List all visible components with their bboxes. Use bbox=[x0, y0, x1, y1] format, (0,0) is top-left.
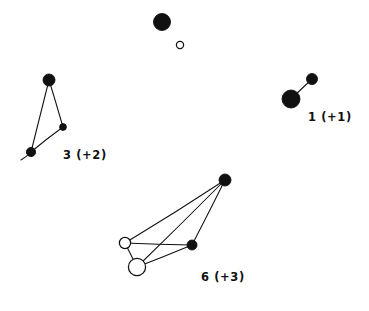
node-top-pair-t1-filled bbox=[154, 14, 171, 31]
node-top-pair-t2-open bbox=[176, 41, 183, 48]
node-bottom-quad-b4-open bbox=[128, 258, 145, 275]
node-left-triangle-l3-filled bbox=[26, 147, 35, 156]
cluster-diagram: 1 (+1)3 (+2)6 (+3) bbox=[0, 0, 369, 311]
nodes-layer bbox=[26, 14, 317, 276]
cluster-label-1: 3 (+2) bbox=[63, 148, 107, 162]
edges-layer bbox=[21, 79, 312, 267]
edge-bottom-quad-b1-b3 bbox=[125, 180, 225, 243]
node-bottom-quad-b3-open bbox=[119, 237, 130, 248]
cluster-label-2: 6 (+3) bbox=[201, 270, 245, 284]
node-bottom-quad-b1-filled bbox=[219, 174, 231, 186]
figure-canvas: 1 (+1)3 (+2)6 (+3) bbox=[0, 0, 369, 311]
edge-bottom-quad-b2-b3 bbox=[125, 243, 192, 245]
node-bottom-quad-b2-filled bbox=[187, 240, 197, 250]
cluster-label-0: 1 (+1) bbox=[308, 110, 352, 124]
edge-left-triangle-l1-l3 bbox=[31, 80, 49, 152]
edge-bottom-quad-b1-b4 bbox=[137, 180, 225, 267]
edge-left-triangle-l1-l2 bbox=[49, 80, 63, 127]
node-right-pair-r2-filled bbox=[307, 74, 318, 85]
node-left-triangle-l1-filled bbox=[43, 74, 55, 86]
node-left-triangle-l2-filled bbox=[60, 124, 67, 131]
edge-bottom-quad-b1-b2 bbox=[192, 180, 225, 245]
node-right-pair-r1-filled bbox=[282, 90, 300, 108]
